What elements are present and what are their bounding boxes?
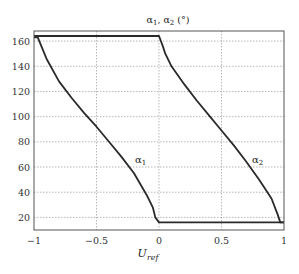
chart-title: α1, α2 (°) bbox=[146, 14, 189, 27]
y-tick-label: 140 bbox=[12, 61, 30, 72]
x-tick-label: −0.5 bbox=[85, 235, 108, 246]
y-tick-label: 20 bbox=[18, 212, 30, 223]
x-tick-label: 0.5 bbox=[214, 235, 229, 246]
y-tick-label: 160 bbox=[12, 36, 30, 47]
x-tick-label: 1 bbox=[281, 235, 287, 246]
curve-label-alpha1: α1 bbox=[135, 154, 146, 167]
x-axis-ticks: −1−0.500.51 bbox=[27, 235, 287, 246]
y-tick-label: 40 bbox=[18, 187, 30, 198]
y-tick-label: 60 bbox=[18, 162, 30, 173]
x-axis-label: Uref bbox=[138, 247, 161, 262]
y-tick-label: 80 bbox=[18, 136, 30, 147]
x-tick-label: −1 bbox=[27, 235, 41, 246]
y-tick-label: 120 bbox=[12, 86, 30, 97]
x-tick-label: 0 bbox=[156, 235, 162, 246]
chart: 20406080100120140160 −1−0.500.51 α1, α2 … bbox=[0, 0, 299, 274]
grid-lines bbox=[34, 31, 284, 230]
curve-label-alpha2: α2 bbox=[252, 154, 263, 167]
y-axis-ticks: 20406080100120140160 bbox=[12, 36, 30, 223]
y-tick-label: 100 bbox=[12, 111, 30, 122]
